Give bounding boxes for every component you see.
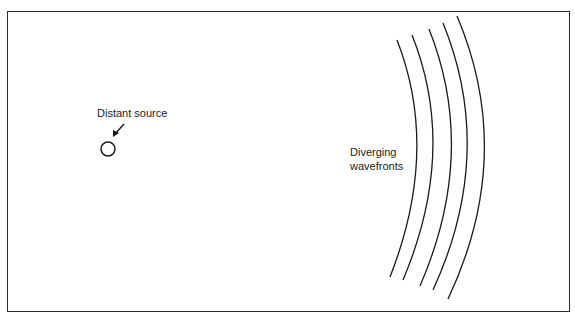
- wavefronts: [390, 16, 484, 299]
- wavefront-label: Diverging wavefronts: [350, 145, 403, 173]
- source-label: Distant source: [97, 106, 167, 120]
- wavefront-3: [420, 29, 451, 286]
- wavefront-label-line2: wavefronts: [350, 159, 403, 173]
- wavefront-5: [448, 16, 484, 299]
- wavefront-label-line1: Diverging: [350, 145, 403, 159]
- source-circle-icon: [101, 142, 115, 156]
- diagram-art: [0, 0, 575, 321]
- arrow-icon: [113, 124, 124, 137]
- wavefront-4: [433, 23, 467, 290]
